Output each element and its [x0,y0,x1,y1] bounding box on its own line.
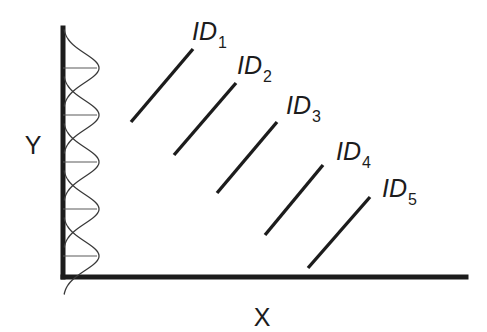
id-label-id1: ID1 [192,17,227,51]
axes-group [63,28,466,277]
id-label-subscript: 4 [362,154,371,171]
y-axis-distribution-curves [63,30,99,294]
figure-container: ID1ID2ID3ID4ID5 Y X [0,0,487,332]
id-label-subscript: 1 [218,34,227,51]
y-axis-label: Y [25,131,42,159]
id-label-id4: ID4 [336,137,371,171]
id-line-segments [131,49,370,268]
id-line-segment-id1[interactable] [131,49,193,122]
id-line-segment-id2[interactable] [174,83,236,155]
id-line-segment-id4[interactable] [265,165,323,235]
id-label-subscript: 5 [408,191,417,208]
id-label-id5: ID5 [382,174,417,208]
id-label-main: ID [336,137,361,165]
id-line-segment-id3[interactable] [217,122,277,193]
id-label-id3: ID3 [286,91,321,125]
id-label-subscript: 3 [312,108,321,125]
id-series-labels: ID1ID2ID3ID4ID5 [192,17,417,208]
diagram-canvas: ID1ID2ID3ID4ID5 Y X [0,0,487,332]
id-label-subscript: 2 [263,68,272,85]
id-label-id2: ID2 [237,51,272,85]
id-line-segment-id5[interactable] [308,197,370,268]
id-label-main: ID [237,51,262,79]
id-label-main: ID [382,174,407,202]
id-label-main: ID [286,91,311,119]
x-axis-label: X [254,303,271,331]
id-label-main: ID [192,17,217,45]
